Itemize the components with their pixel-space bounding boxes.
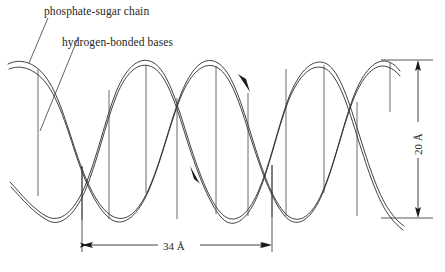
label-phosphate-sugar-chain: phosphate-sugar chain — [44, 5, 149, 18]
base-pair-rung-group — [38, 63, 390, 220]
leader-line-phosphate-sugar-chain — [29, 18, 48, 63]
label-hydrogen-bonded-bases: hydrogen-bonded bases — [62, 36, 173, 49]
helix-strand-group — [8, 60, 404, 230]
diameter-dimension-group: 20 Å — [381, 60, 433, 218]
figure-canvas: phosphate-sugar chain hydrogen-bonded ba… — [0, 0, 445, 272]
strand-b-edge-outer — [10, 60, 404, 226]
dna-helix-figure: phosphate-sugar chain hydrogen-bonded ba… — [0, 0, 445, 272]
strand-a-edge-inner — [9, 65, 400, 222]
strand-b-ribbon — [10, 60, 404, 230]
diameter-dimension-label: 20 Å — [412, 133, 424, 155]
leader-line-hydrogen-bonded-bases — [40, 38, 78, 131]
pitch-dimension-label: 34 Å — [163, 240, 185, 252]
direction-arrow-down-right-icon — [238, 74, 250, 92]
direction-arrow-group — [190, 74, 250, 184]
leader-line-group — [29, 18, 78, 131]
strand-a-ribbon — [8, 60, 400, 222]
